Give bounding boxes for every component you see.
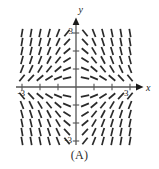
slope-mark	[92, 38, 96, 46]
slope-mark	[39, 119, 41, 127]
slope-mark	[47, 47, 50, 55]
slope-mark	[63, 67, 71, 70]
slope-mark	[90, 94, 98, 97]
slope-mark	[37, 75, 44, 80]
slope-mark	[21, 56, 23, 64]
slope-mark	[129, 47, 131, 55]
slope-mark	[81, 95, 89, 97]
slope-mark	[102, 29, 104, 37]
slope-mark	[120, 38, 122, 46]
slope-mark	[81, 77, 89, 79]
slope-mark	[82, 120, 89, 125]
slope-mark	[64, 48, 71, 53]
slope-mark	[37, 93, 44, 98]
slope-mark	[39, 128, 41, 136]
slope-mark	[28, 93, 34, 99]
slope-mark	[64, 120, 71, 125]
slope-mark	[46, 102, 51, 109]
slope-mark	[102, 137, 104, 145]
slope-mark	[120, 47, 122, 55]
slope-mark	[56, 128, 60, 136]
x-axis-arrowhead	[136, 84, 144, 91]
slope-mark	[55, 57, 60, 64]
slope-mark	[99, 94, 106, 99]
slope-mark	[92, 128, 96, 136]
slope-mark	[119, 101, 123, 109]
slope-mark	[29, 65, 33, 73]
slope-mark	[39, 47, 41, 55]
slope-mark	[30, 47, 32, 55]
slope-mark	[38, 65, 42, 72]
slope-mark	[55, 102, 62, 107]
slope-mark	[56, 119, 60, 126]
slope-mark	[56, 38, 60, 46]
slope-mark	[47, 110, 51, 118]
slope-mark	[91, 66, 98, 71]
slope-mark	[28, 75, 34, 81]
slope-mark	[90, 76, 98, 79]
slope-mark	[111, 47, 113, 55]
slope-mark	[30, 110, 33, 118]
slope-mark	[92, 119, 96, 126]
slope-mark	[101, 47, 104, 55]
slope-mark	[47, 119, 50, 127]
slope-mark	[91, 111, 96, 118]
slope-mark	[119, 65, 123, 73]
slope-mark	[99, 76, 106, 81]
slope-mark	[21, 38, 22, 46]
y-axis-label: y	[78, 4, 84, 15]
slope-mark	[63, 95, 71, 97]
slope-mark	[120, 128, 122, 136]
slope-mark	[30, 56, 33, 64]
y-tick-label-minus-3: -3	[65, 135, 73, 145]
slope-mark	[82, 30, 87, 37]
slope-mark	[129, 29, 130, 37]
slope-mark	[111, 119, 113, 127]
slope-mark	[120, 110, 123, 118]
slope-mark	[92, 137, 95, 145]
slope-mark	[39, 29, 41, 37]
slope-field-plot: x y 3 -3 -3 3	[0, 0, 159, 169]
slope-mark	[110, 110, 113, 118]
slope-mark	[81, 58, 88, 63]
slope-mark	[129, 38, 130, 46]
slope-mark	[81, 103, 89, 106]
figure-caption: (A)	[0, 148, 159, 163]
slope-mark	[55, 111, 60, 118]
slope-mark	[102, 38, 105, 46]
slope-mark	[46, 66, 51, 73]
axes-group	[16, 18, 144, 146]
slope-mark	[29, 101, 33, 109]
slope-mark	[100, 102, 105, 109]
slope-mark	[63, 58, 70, 63]
slope-mark	[110, 56, 113, 64]
slope-mark	[45, 76, 52, 81]
slope-mark	[21, 128, 22, 136]
slope-mark	[19, 75, 24, 82]
slope-mark	[39, 137, 41, 145]
slope-mark	[48, 128, 51, 136]
slope-mark	[129, 56, 131, 64]
slope-mark	[30, 38, 32, 46]
slope-mark	[92, 47, 96, 54]
slope-mark	[129, 119, 131, 127]
x-tick-label-3: 3	[124, 88, 129, 98]
slope-mark	[30, 29, 31, 37]
slope-mark	[81, 67, 89, 70]
slope-mark	[54, 94, 62, 97]
slope-mark	[82, 129, 88, 135]
slope-mark	[110, 65, 114, 72]
slope-mark	[55, 66, 62, 71]
slope-mark	[64, 39, 70, 45]
slope-mark	[91, 102, 98, 107]
slope-mark	[101, 56, 105, 64]
slope-mark	[102, 128, 105, 136]
slope-mark	[129, 137, 130, 145]
slope-mark	[54, 76, 62, 79]
slope-mark	[101, 110, 105, 118]
slope-mark	[128, 101, 131, 109]
slope-mark	[48, 137, 50, 145]
slope-mark	[92, 29, 95, 37]
slope-mark	[120, 29, 121, 37]
slope-mark	[48, 38, 51, 46]
